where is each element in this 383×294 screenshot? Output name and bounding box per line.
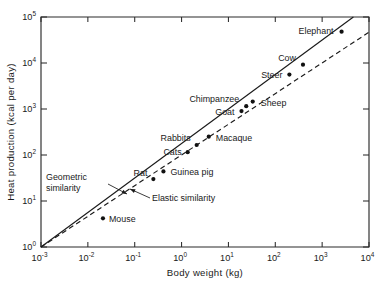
annotation-elastic-similarity: Elastic similarity [152,193,216,203]
point-label-cow: Cow [278,53,296,63]
data-point-steer [287,72,291,76]
data-point-goat [239,109,243,113]
point-label-chimpanzee: Chimpanzee [189,94,239,104]
point-label-cats: Cats [163,147,182,157]
data-point-macaque [207,135,211,139]
data-point-rabbits [195,143,199,147]
data-point-sheep [251,99,255,103]
data-point-rat [151,177,155,181]
point-label-goat: Goat [215,107,235,117]
point-label-macaque: Macaque [216,133,253,143]
figure-container: 10-310-210-1100101102103104 100101102103… [0,0,383,294]
data-point-cow [301,63,305,67]
point-label-steer: Steer [261,70,282,80]
y-axis-title: Heat production (kcal per day) [5,63,16,201]
point-label-rat: Rat [134,168,148,178]
point-label-rabbits: Rabbits [161,133,192,143]
data-point-cats [186,150,190,154]
point-label-elephant: Elephant [299,26,335,36]
heat-production-scatter-chart: 10-310-210-1100101102103104 100101102103… [0,0,383,294]
data-point-guinea-pig [161,169,165,173]
point-label-mouse: Mouse [109,214,136,224]
x-axis-title: Body weight (kg) [167,267,243,278]
point-label-guinea-pig: Guinea pig [170,167,213,177]
data-point-mouse [101,216,105,220]
data-point-chimpanzee [244,104,248,108]
data-point-elephant [339,30,343,34]
point-label-sheep: Sheep [261,98,287,108]
